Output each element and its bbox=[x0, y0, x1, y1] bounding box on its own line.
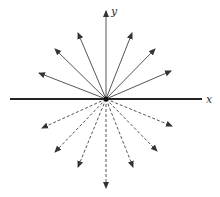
dashed-arrows bbox=[42, 99, 172, 188]
solid-arrow bbox=[78, 33, 106, 99]
solid-arrow bbox=[106, 49, 155, 99]
origin-point bbox=[104, 97, 109, 102]
vector-diagram: x y bbox=[0, 0, 220, 197]
dashed-arrow bbox=[106, 99, 172, 126]
dashed-arrow bbox=[106, 99, 133, 167]
axes bbox=[10, 11, 202, 99]
solid-arrow bbox=[55, 49, 106, 99]
x-axis-label: x bbox=[206, 93, 213, 106]
dashed-arrow bbox=[42, 99, 106, 128]
solid-arrow bbox=[39, 73, 106, 99]
dashed-arrow bbox=[106, 99, 157, 151]
solid-arrows bbox=[39, 33, 171, 99]
dashed-arrow bbox=[78, 99, 106, 167]
dashed-arrow bbox=[55, 99, 106, 152]
y-axis-label: y bbox=[110, 5, 118, 18]
